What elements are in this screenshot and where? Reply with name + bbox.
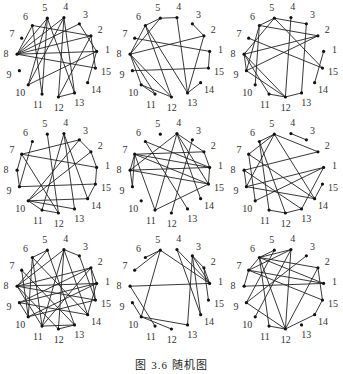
node-label-11: 11: [33, 215, 43, 226]
node-label-12: 12: [167, 102, 177, 113]
node-4: [289, 248, 292, 251]
node-label-2: 2: [211, 256, 216, 267]
node-13: [300, 323, 303, 326]
node-5: [273, 17, 276, 20]
node-6: [258, 24, 261, 27]
node-1: [208, 166, 211, 169]
node-10: [254, 315, 257, 318]
edge-5-14: [274, 134, 314, 199]
edge-12-13: [58, 93, 74, 97]
node-label-3: 3: [83, 9, 88, 20]
node-11: [153, 92, 156, 95]
node-5: [46, 133, 49, 136]
edge-1-15: [208, 51, 209, 68]
node-label-4: 4: [63, 233, 68, 244]
node-6: [144, 256, 147, 259]
edge-6-5: [259, 18, 274, 25]
edge-10-14: [28, 199, 87, 201]
node-label-4: 4: [176, 233, 181, 244]
node-9: [18, 185, 21, 188]
node-10: [27, 199, 30, 202]
node-13: [300, 91, 303, 94]
node-label-3: 3: [196, 125, 201, 136]
edge-7-15: [249, 38, 323, 68]
node-3: [78, 138, 81, 141]
edge-4-14: [64, 134, 88, 199]
node-14: [86, 197, 89, 200]
edge-2-12: [285, 268, 318, 329]
node-label-3: 3: [196, 241, 201, 252]
edge-3-15: [79, 256, 95, 300]
node-4: [175, 16, 178, 19]
edge-1-15: [95, 167, 96, 184]
node-15: [207, 66, 210, 69]
edge-6-1: [259, 257, 323, 283]
node-5: [46, 249, 49, 252]
node-label-14: 14: [91, 316, 101, 327]
node-label-11: 11: [260, 99, 270, 110]
node-5: [273, 249, 276, 252]
node-label-10: 10: [242, 203, 252, 214]
node-label-2: 2: [325, 24, 330, 35]
node-10: [140, 315, 143, 318]
node-label-5: 5: [42, 118, 47, 129]
node-label-6: 6: [23, 127, 28, 138]
edge-5-11: [42, 18, 47, 94]
node-3: [78, 22, 81, 25]
node-2: [89, 266, 92, 269]
edge-4-3: [291, 134, 306, 140]
node-7: [20, 269, 23, 272]
edge-7-11: [135, 154, 155, 210]
node-8: [15, 169, 18, 172]
node-label-11: 11: [260, 331, 270, 342]
edge-5-2: [274, 134, 318, 152]
node-label-6: 6: [136, 243, 141, 254]
edge-7-8: [17, 154, 22, 170]
node-label-10: 10: [128, 203, 138, 214]
node-label-8: 8: [117, 280, 122, 291]
edge-8-1: [130, 167, 210, 170]
graph-1: 123456789101112131415: [0, 0, 114, 116]
node-label-5: 5: [42, 234, 47, 245]
node-label-5: 5: [269, 234, 274, 245]
edge-6-13: [145, 141, 187, 208]
node-label-8: 8: [231, 280, 236, 291]
node-label-13: 13: [74, 329, 84, 340]
edge-11-12: [42, 210, 58, 213]
edge-7-12: [22, 154, 59, 213]
node-6: [31, 140, 34, 143]
node-label-3: 3: [83, 125, 88, 136]
edge-15-14: [315, 184, 323, 199]
node-label-14: 14: [204, 200, 214, 211]
node-label-13: 13: [74, 97, 84, 108]
node-2: [89, 150, 92, 153]
node-label-7: 7: [9, 144, 14, 155]
node-3: [191, 138, 194, 141]
node-label-1: 1: [105, 44, 110, 55]
edge-1-15: [208, 167, 209, 184]
edge-6-11: [259, 141, 269, 210]
edge-8-9: [244, 170, 246, 186]
node-7: [247, 269, 250, 272]
edge-8-2: [244, 152, 318, 170]
node-15: [321, 298, 324, 301]
node-12: [284, 211, 287, 214]
node-label-15: 15: [214, 66, 224, 77]
edge-3-14: [192, 256, 200, 315]
edge-8-2: [130, 36, 204, 54]
node-7: [20, 37, 23, 40]
node-label-15: 15: [101, 66, 111, 77]
node-4: [289, 16, 292, 19]
edge-5-15: [274, 18, 322, 68]
node-label-8: 8: [4, 280, 9, 291]
node-11: [40, 324, 43, 327]
node-label-7: 7: [236, 144, 241, 155]
edge-4-13: [177, 18, 188, 93]
node-15: [94, 66, 97, 69]
node-label-3: 3: [310, 9, 315, 20]
node-label-3: 3: [196, 9, 201, 20]
node-label-8: 8: [4, 48, 9, 59]
node-label-1: 1: [218, 44, 223, 55]
node-label-1: 1: [218, 160, 223, 171]
node-4: [62, 132, 65, 135]
